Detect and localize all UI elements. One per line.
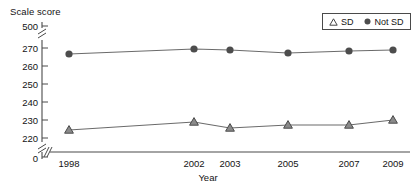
data-point-not-sd-2005[interactable] [284,49,291,56]
data-point-not-sd-2009[interactable] [389,46,396,53]
data-point-sd-2009[interactable] [389,116,398,124]
y-axis-break-upper-icon [38,29,46,38]
data-point-not-sd-2003[interactable] [226,46,233,53]
data-point-not-sd-2002[interactable] [190,45,197,52]
data-point-sd-2005[interactable] [284,121,293,129]
chart-plot-area [0,0,416,195]
chart-container: Scale score Year 500 270 260 250 240 230… [0,0,416,195]
data-point-sd-2002[interactable] [190,118,199,126]
data-point-not-sd-1998[interactable] [65,50,72,57]
y-axis-break-lower-icon [38,144,46,153]
data-point-not-sd-2007[interactable] [345,47,352,54]
